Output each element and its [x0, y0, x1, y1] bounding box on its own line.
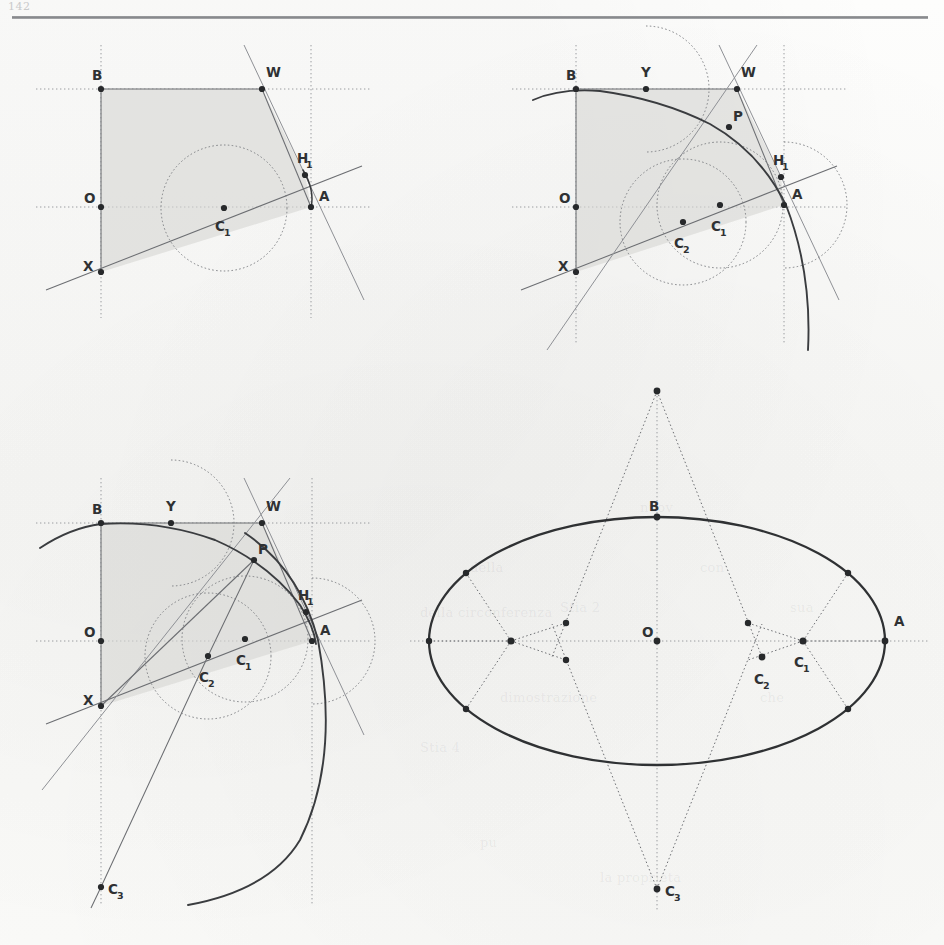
panel2-point-b: [573, 86, 579, 92]
panel2-label-w: W: [741, 64, 756, 80]
panel4-label-c3-sub: 3: [674, 892, 681, 903]
panel4-point-right-inner-upper: [745, 620, 751, 626]
panel1-shaded-region: [101, 89, 311, 272]
panel1-point-c1: [221, 205, 227, 211]
panel3-point-o: [98, 638, 104, 644]
figure-page: 142 .ax{stroke:#9a9ca0;stroke-width:1;st…: [0, 0, 944, 945]
panel2-point-c2: [680, 219, 686, 225]
bleed-text-9: la proprieta: [600, 870, 681, 885]
panel3-label-p: P: [258, 541, 268, 557]
panel3-label-a: A: [320, 622, 331, 638]
panel2-label-o: O: [559, 190, 570, 206]
panel3-label-x: X: [83, 692, 94, 708]
panel3-label-w: W: [266, 498, 281, 514]
panel-3: B Y W P H 1 A O C 1 C 2 X C 3: [36, 460, 375, 908]
panel2-point-x: [573, 269, 579, 275]
bleed-text-10: pu: [480, 835, 497, 850]
panel3-label-y: Y: [165, 498, 176, 514]
panel3-arc-w: [312, 578, 375, 704]
panel4-point-left-lower: [463, 706, 469, 712]
bleed-text-6: che: [760, 690, 784, 705]
panel2-point-w: [734, 86, 740, 92]
panel2-label-y: Y: [640, 64, 651, 80]
panel3-point-c2: [205, 653, 211, 659]
panel1-label-h1-sub: 1: [306, 159, 313, 170]
panel4-point-o: [654, 638, 661, 645]
panel3-line-c3-extend: [91, 887, 101, 908]
panel2-point-h1: [778, 174, 784, 180]
panel3-label-c2-sub: 2: [208, 678, 215, 689]
panel3-label-c3-sub: 3: [117, 890, 124, 901]
panel3-point-h1: [303, 609, 309, 615]
panel3-label-o: O: [84, 624, 95, 640]
panel3-point-p: [251, 557, 257, 563]
bleed-text-3: con: [700, 560, 724, 575]
panel2-label-c2-sub: 2: [683, 244, 690, 255]
panel1-point-b: [98, 86, 104, 92]
panel4-point-c1: [799, 637, 806, 644]
panel4-point-c3: [654, 886, 661, 893]
panel1-label-a: A: [319, 188, 330, 204]
bleed-text-8: Stia 4: [420, 740, 460, 755]
panel1-label-c1-sub: 1: [224, 227, 231, 238]
panel1-label-o: O: [84, 190, 95, 206]
panel2-point-c1: [717, 202, 723, 208]
panel2-label-b: B: [566, 67, 576, 83]
panel1-label-x: X: [83, 258, 94, 274]
panel3-point-c3: [98, 884, 104, 890]
panel2-point-y: [643, 86, 649, 92]
panel2-point-p: [726, 124, 732, 130]
panel1-point-h1: [302, 172, 308, 178]
panel4-point-c2: [759, 654, 766, 661]
panel2-label-a: A: [792, 186, 803, 202]
panel4-point-left-vertex: [426, 638, 432, 644]
panel-1: B W H 1 A O C 1 X: [36, 45, 372, 318]
bleed-text-4: sua: [790, 600, 814, 615]
panel3-point-b: [98, 520, 104, 526]
panel1-point-w: [259, 86, 265, 92]
panel3-point-a: [309, 638, 315, 644]
bleed-text-2: della circonferenza: [420, 605, 552, 620]
panel4-point-left-upper: [463, 570, 469, 576]
panel4-point-apex-top: [654, 388, 661, 395]
panel2-point-a: [781, 202, 787, 208]
panel3-label-h1-sub: 1: [307, 596, 314, 607]
panel3-label-c1-sub: 1: [245, 661, 252, 672]
panel4-label-c1-sub: 1: [803, 663, 810, 674]
panel1-label-b: B: [92, 67, 102, 83]
panel4-point-right-lower: [845, 706, 851, 712]
panel2-label-p: P: [733, 108, 743, 124]
figure-canvas: .ax{stroke:#9a9ca0;stroke-width:1;stroke…: [0, 0, 944, 945]
panel-2: B Y W P H 1 A O C 1 C 2 X: [512, 26, 848, 350]
bleed-text-1: della: [470, 560, 504, 575]
panel4-label-o: O: [642, 624, 653, 640]
panel4-point-a: [882, 638, 889, 645]
panel4-point-left-inner-upper: [563, 620, 569, 626]
panel2-label-c1-sub: 1: [720, 227, 727, 238]
panel1-label-w: W: [266, 64, 281, 80]
panel3-point-y: [168, 520, 174, 526]
panel-4: B O A C 1 C 2 C 3: [410, 388, 930, 912]
panel4-point-right-upper: [845, 570, 851, 576]
panel2-label-x: X: [558, 258, 569, 274]
panel1-point-x: [98, 269, 104, 275]
panel3-label-b: B: [92, 501, 102, 517]
panel1-point-a: [308, 204, 314, 210]
panel3-point-x: [98, 703, 104, 709]
panel3-point-c1: [242, 636, 248, 642]
bleed-text-5: dimostrazione: [500, 690, 597, 705]
panel4-point-c1-mirror: [507, 637, 514, 644]
bleed-text-7: Stia 2: [560, 600, 600, 615]
panel2-point-o: [573, 204, 579, 210]
panel1-point-o: [98, 204, 104, 210]
panel3-point-w: [259, 520, 265, 526]
panel4-point-left-inner-lower: [563, 657, 569, 663]
panel4-label-a: A: [894, 613, 905, 629]
panel2-label-h1-sub: 1: [782, 161, 789, 172]
bleed-text-0: nuov: [640, 500, 673, 515]
